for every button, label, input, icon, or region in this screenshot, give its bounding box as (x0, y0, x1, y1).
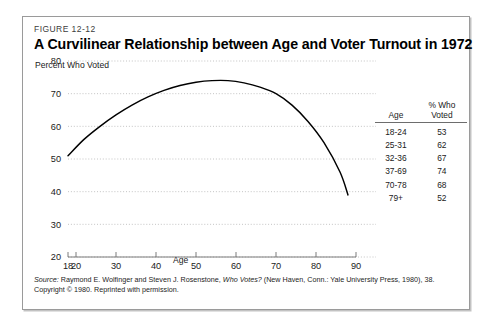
x-axis-title: Age (173, 255, 188, 265)
figure-number: FIGURE 12-12 (34, 24, 96, 34)
cell-percent-voted: 74 (417, 165, 467, 178)
source-publisher: (New Haven, Conn.: Yale University Press… (262, 275, 435, 284)
svg-text:40: 40 (51, 187, 61, 197)
table-row: 32-3667 (375, 152, 467, 165)
table-header-row: Age % Who Voted (375, 101, 467, 123)
svg-text:50: 50 (191, 261, 201, 271)
svg-text:20: 20 (71, 261, 81, 271)
table-row: 79+52 (375, 191, 467, 204)
x-axis-ticks-group: 182030405060708090 (63, 252, 361, 271)
cell-percent-voted: 52 (417, 191, 467, 204)
cell-percent-voted: 68 (417, 178, 467, 191)
source-line-2: Copyright © 1980. Reprinted with permiss… (34, 285, 458, 295)
source-line-1: Source: Raymond E. Wolfinger and Steven … (34, 275, 458, 285)
cell-age: 70-78 (375, 178, 417, 191)
turnout-curve (68, 80, 348, 195)
svg-text:20: 20 (51, 252, 61, 262)
table-body: 18-245325-316232-366737-697470-786879+52 (375, 123, 467, 205)
column-header-percent-line2: Voted (431, 110, 452, 120)
svg-text:60: 60 (231, 261, 241, 271)
svg-text:80: 80 (311, 261, 321, 271)
source-label: Source: (34, 275, 59, 284)
table-row: 25-3162 (375, 138, 467, 151)
svg-text:40: 40 (151, 261, 161, 271)
svg-text:90: 90 (351, 261, 361, 271)
cell-age: 79+ (375, 191, 417, 204)
column-header-percent-voted: % Who Voted (417, 101, 467, 123)
svg-text:80: 80 (51, 57, 61, 66)
svg-text:30: 30 (51, 220, 61, 230)
figure-card: FIGURE 12-12 A Curvilinear Relationship … (22, 16, 470, 310)
svg-text:30: 30 (111, 261, 121, 271)
cell-age: 18-24 (375, 123, 417, 139)
cell-age: 25-31 (375, 138, 417, 151)
svg-text:70: 70 (51, 89, 61, 99)
chart-plot-area: Percent Who Voted 80706050403020 1820304… (23, 57, 471, 272)
source-authors: Raymond E. Wolfinger and Steven J. Rosen… (59, 275, 223, 284)
column-header-percent-line1: % Who (428, 100, 455, 110)
table-row: 18-2453 (375, 123, 467, 139)
table-row: 70-7868 (375, 178, 467, 191)
column-header-age: Age (375, 101, 417, 123)
cell-age: 37-69 (375, 165, 417, 178)
svg-text:70: 70 (271, 261, 281, 271)
y-axis-ticks-group: 80706050403020 (51, 57, 61, 262)
gridlines-group (68, 61, 376, 257)
svg-text:50: 50 (51, 154, 61, 164)
cell-percent-voted: 53 (417, 123, 467, 139)
figure-title: A Curvilinear Relationship between Age a… (34, 36, 472, 52)
table-row: 37-6974 (375, 165, 467, 178)
svg-text:60: 60 (51, 122, 61, 132)
source-note: Source: Raymond E. Wolfinger and Steven … (34, 275, 458, 296)
cell-percent-voted: 67 (417, 152, 467, 165)
cell-percent-voted: 62 (417, 138, 467, 151)
cell-age: 32-36 (375, 152, 417, 165)
source-work-title: Who Votes? (223, 275, 262, 284)
turnout-data-table: Age % Who Voted 18-245325-316232-366737-… (375, 101, 467, 204)
